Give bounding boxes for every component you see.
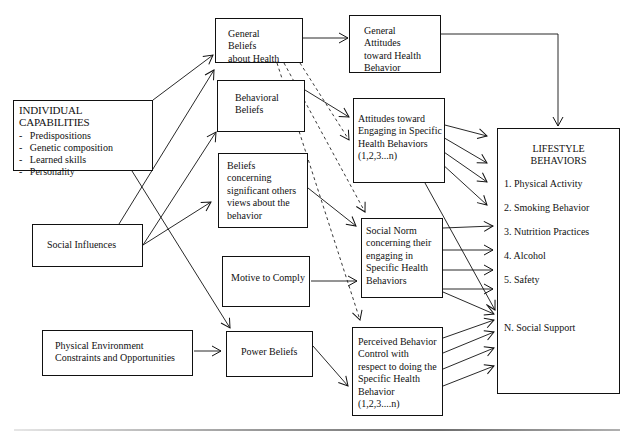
social-influences-box: Social Influences — [32, 224, 143, 267]
perceived-control-line: (1,2,3....n) — [358, 398, 437, 410]
general-beliefs-line: General Beliefs — [228, 28, 290, 53]
perceived-control-box: Perceived Behavior Control with respect … — [352, 327, 443, 416]
perceived-control-line: Control with — [358, 348, 437, 360]
arrow-behavioral-to-attitudes — [305, 90, 349, 117]
arrow-power-to-perceived — [313, 346, 348, 386]
social-norm-line: engaging in — [366, 250, 438, 262]
attitudes-engaging-box: Attitudes toward Engaging in Specific He… — [353, 98, 445, 183]
social-norm-box: Social Norm concerning their engaging in… — [361, 218, 443, 298]
beliefs-concerning-box: Beliefs concerning significant others vi… — [218, 153, 308, 228]
attitudes-engaging-line: (1,2,3...n) — [358, 150, 440, 162]
general-attitudes-box: General Attitudes toward Health Behavior — [349, 15, 441, 73]
perceived-control-line: Perceived Behavior — [358, 336, 437, 348]
physical-environment-box: Physical Environment Constraints and Opp… — [42, 330, 193, 376]
capabilities-list: Predispositions Genetic composition Lear… — [19, 130, 147, 179]
capability-item: Learned skills — [19, 154, 147, 166]
arrow-beliefs-concerning-to-social-norm — [308, 188, 356, 226]
beliefs-concerning-line: Beliefs concerning — [227, 160, 299, 185]
perceived-control-line: respect to doing the — [358, 361, 437, 373]
lifestyle-title-line: BEHAVIORS — [504, 155, 613, 167]
beliefs-concerning-line: significant others — [227, 185, 299, 197]
capability-item: Personality — [19, 166, 147, 178]
attitudes-engaging-line: Attitudes toward — [358, 113, 440, 125]
bottom-rule — [14, 429, 620, 431]
behavioral-beliefs-line: Beliefs — [235, 104, 287, 116]
social-norm-line: concerning their — [366, 237, 438, 249]
attitudes-engaging-line: Engaging in Specific — [358, 125, 440, 137]
general-attitudes-line: toward Health — [364, 50, 426, 62]
individual-capabilities-title: INDIVIDUAL CAPABILITIES — [19, 104, 147, 129]
arrow-capabilities-to-power-beliefs — [132, 171, 230, 328]
individual-capabilities-box: INDIVIDUAL CAPABILITIES Predispositions … — [13, 100, 153, 171]
arrow-capabilities-to-general-beliefs — [153, 55, 213, 100]
physical-environment-line: Physical Environment — [55, 340, 180, 352]
power-beliefs-box: Power Beliefs — [226, 331, 313, 377]
power-beliefs-label: Power Beliefs — [241, 346, 297, 358]
lifestyle-item: 4. Alcohol — [504, 250, 613, 274]
lifestyle-item: 2. Smoking Behavior — [504, 202, 613, 226]
lifestyle-title-line: LIFESTYLE — [504, 143, 613, 155]
general-attitudes-line: General Attitudes — [364, 25, 426, 50]
arrow-social-to-behavioral-beliefs — [143, 132, 216, 245]
beliefs-concerning-line: views about the — [227, 197, 299, 209]
lifestyle-behaviors-title: LIFESTYLE BEHAVIORS — [504, 143, 613, 168]
perceived-control-line: Behavior — [358, 386, 437, 398]
general-beliefs-box: General Beliefs about Health — [215, 18, 303, 63]
social-norm-line: Behaviors — [366, 275, 438, 287]
beliefs-concerning-line: behavior — [227, 210, 299, 222]
motive-to-comply-box: Motive to Comply — [222, 256, 310, 307]
lifestyle-item: 1. Physical Activity — [504, 178, 613, 202]
capability-item: Genetic composition — [19, 142, 147, 154]
attitudes-engaging-line: Health Behaviors — [358, 138, 440, 150]
general-beliefs-line: about Health — [228, 53, 290, 65]
arrow-social-to-beliefs-concerning — [143, 202, 211, 245]
lifestyle-behaviors-box: LIFESTYLE BEHAVIORS 1. Physical Activity… — [497, 128, 620, 394]
capability-item: Predispositions — [19, 130, 147, 142]
behavioral-beliefs-line: Behavioral — [235, 92, 287, 104]
physical-environment-line: Constraints and Opportunities — [55, 352, 180, 364]
perceived-control-line: Specific Health — [358, 373, 437, 385]
lifestyle-behaviors-list: 1. Physical Activity 2. Smoking Behavior… — [504, 178, 613, 346]
social-influences-label: Social Influences — [47, 239, 116, 251]
lifestyle-item: N. Social Support — [504, 322, 613, 346]
social-norm-line: Social Norm — [366, 225, 438, 237]
social-norm-line: Specific Health — [366, 262, 438, 274]
arrow-general-attitudes-to-lifestyle — [441, 34, 558, 126]
general-attitudes-line: Behavior — [364, 62, 426, 74]
motive-to-comply-label: Motive to Comply — [231, 272, 305, 284]
lifestyle-item: 5. Safety — [504, 274, 613, 298]
lifestyle-item: 3. Nutrition Practices — [504, 226, 613, 250]
behavioral-beliefs-box: Behavioral Beliefs — [217, 80, 305, 132]
